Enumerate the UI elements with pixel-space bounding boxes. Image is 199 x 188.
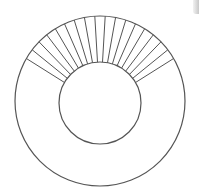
radial-lines xyxy=(26,16,173,82)
radial-line xyxy=(47,35,75,71)
radial-line xyxy=(133,50,168,79)
radial-line xyxy=(32,50,67,79)
radial-line xyxy=(95,16,98,62)
radial-line xyxy=(103,16,106,62)
outer-circle xyxy=(15,16,185,186)
annulus-diagram xyxy=(0,0,199,188)
scrollbar-edge[interactable] xyxy=(193,0,199,14)
inner-circle xyxy=(59,62,141,144)
radial-line xyxy=(126,35,154,71)
